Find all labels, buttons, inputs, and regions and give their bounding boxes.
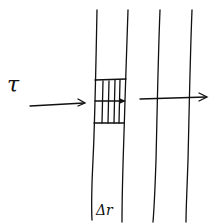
- delta-r-label: Δr: [95, 202, 114, 218]
- tau-label: τ: [7, 72, 20, 97]
- label-layer: τ Δr: [0, 0, 211, 224]
